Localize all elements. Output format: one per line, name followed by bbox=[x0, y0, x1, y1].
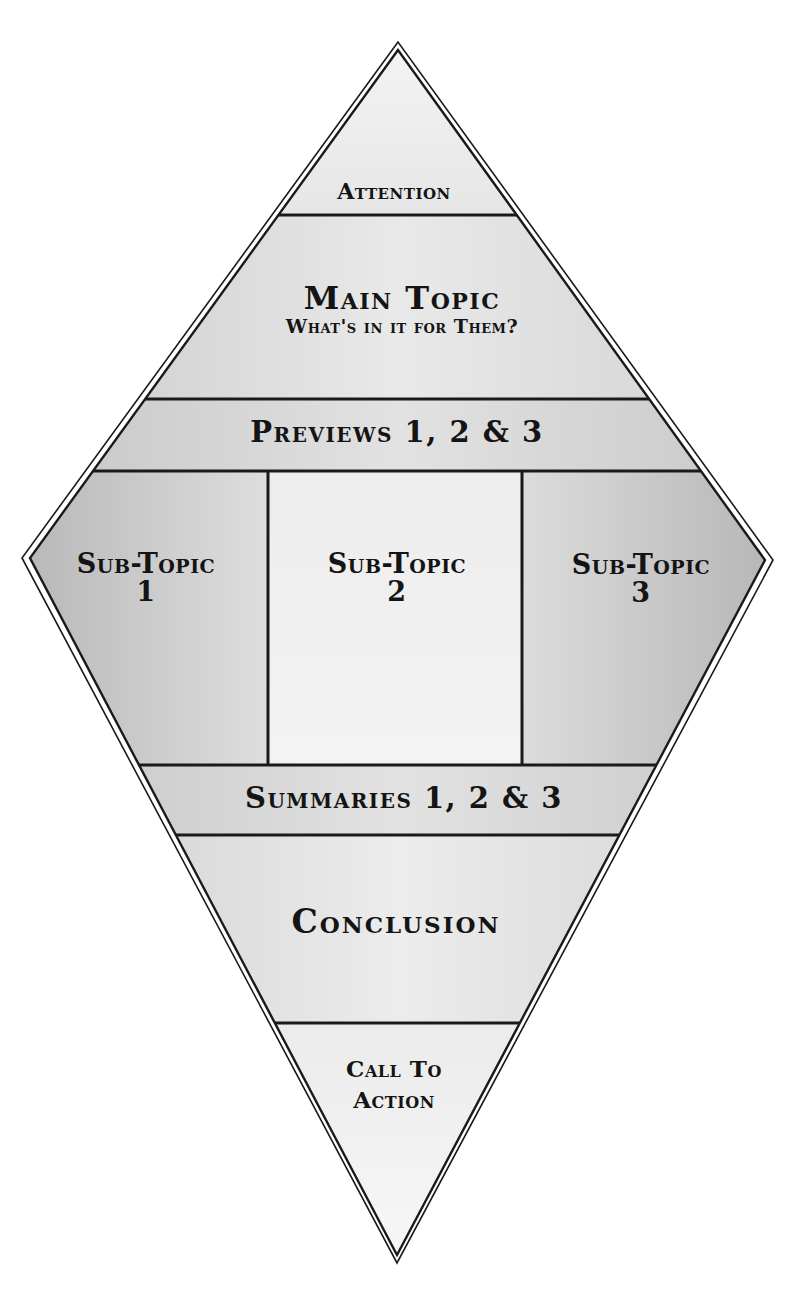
subtopic-2-label: Sub-Topic 2 bbox=[328, 550, 466, 607]
summaries-label: Summaries 1, 2 & 3 bbox=[245, 783, 563, 813]
subtopic-1-label: Sub-Topic 1 bbox=[77, 550, 215, 607]
main-topic-sublabel: What's in it for Them? bbox=[286, 317, 518, 337]
subtopic-3-section bbox=[522, 471, 799, 765]
previews-label: Previews 1, 2 & 3 bbox=[250, 417, 543, 447]
conclusion-label: Conclusion bbox=[291, 905, 500, 940]
main-topic-label: Main Topic bbox=[304, 282, 500, 316]
subtopic-1-section bbox=[0, 471, 268, 765]
subtopic-2-section bbox=[268, 471, 522, 765]
call-to-action-label: Call To Action bbox=[346, 1053, 442, 1115]
subtopic-3-label: Sub-Topic 3 bbox=[572, 551, 710, 608]
attention-label: Attention bbox=[337, 180, 450, 203]
